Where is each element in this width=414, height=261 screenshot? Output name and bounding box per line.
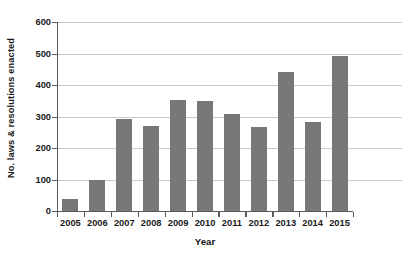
x-tick-mark-9 [299,212,300,217]
bar-2010[interactable] [197,101,213,211]
bar-2011[interactable] [224,114,240,211]
bar-2013[interactable] [278,72,294,211]
x-tick-label-2007: 2007 [114,218,135,228]
y-axis-tick-labels: 0100200300400500600 [22,0,54,215]
y-tick-label-100: 100 [35,175,51,185]
x-tick-label-2010: 2010 [195,218,216,228]
x-tick-mark-10 [326,212,327,217]
x-tick-label-2013: 2013 [275,218,296,228]
x-tick-label-2005: 2005 [60,218,81,228]
x-tick-mark-4 [165,212,166,217]
x-tick-mark-11 [353,212,354,217]
bar-2015[interactable] [332,56,348,211]
bar-2007[interactable] [116,119,132,211]
x-tick-label-2015: 2015 [329,218,350,228]
x-axis-line [57,211,353,212]
x-tick-mark-0 [57,212,58,217]
x-axis-tick-labels: 2005200620072008200920102011201220132014… [57,218,353,232]
bar-2008[interactable] [143,126,159,211]
x-tick-label-2008: 2008 [141,218,162,228]
bar-2006[interactable] [89,180,105,211]
bar-chart: No. laws & resolutions enacted 010020030… [0,0,414,261]
bar-2009[interactable] [170,100,186,211]
bar-2005[interactable] [62,199,78,211]
x-tick-mark-6 [218,212,219,217]
y-tick-label-600: 600 [35,17,51,27]
x-tick-mark-7 [245,212,246,217]
x-tick-mark-8 [272,212,273,217]
x-axis-title: Year [57,236,353,247]
bar-2014[interactable] [305,122,321,211]
y-tick-label-300: 300 [35,112,51,122]
y-tick-label-0: 0 [46,206,51,216]
y-tick-label-200: 200 [35,143,51,153]
x-tick-mark-1 [84,212,85,217]
y-tick-label-400: 400 [35,80,51,90]
x-tick-label-2006: 2006 [87,218,108,228]
x-tick-label-2012: 2012 [248,218,269,228]
x-tick-label-2011: 2011 [222,218,242,228]
bar-2012[interactable] [251,127,267,211]
x-tick-label-2009: 2009 [168,218,189,228]
y-axis-title: No. laws & resolutions enacted [0,0,22,215]
x-tick-mark-2 [111,212,112,217]
y-axis-title-text: No. laws & resolutions enacted [6,37,16,177]
y-tick-label-500: 500 [35,49,51,59]
x-tick-mark-5 [192,212,193,217]
x-tick-label-2014: 2014 [302,218,323,228]
x-tick-mark-3 [138,212,139,217]
bars-layer [57,22,353,211]
